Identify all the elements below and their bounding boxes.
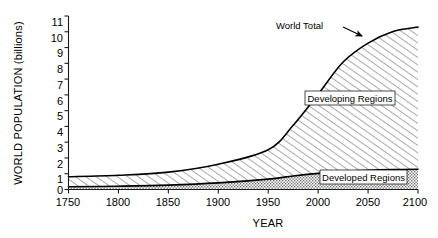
- y-tick-label-8: 8: [57, 63, 63, 75]
- x-tick-label-1800: 1800: [106, 196, 130, 208]
- developing-regions-label: Developing Regions: [307, 93, 392, 104]
- x-tick-label-2100: 2100: [403, 196, 427, 208]
- y-tick-label-4: 4: [57, 126, 63, 138]
- y-tick-label-2: 2: [57, 158, 63, 170]
- y-tick-label-3: 3: [57, 142, 63, 154]
- x-tick-label-2050: 2050: [356, 196, 380, 208]
- y-axis-title: WORLD POPULATION (billions): [12, 21, 24, 185]
- y-tick-label-5: 5: [57, 110, 63, 122]
- legend-developing-regions: Developing Regions: [305, 91, 395, 105]
- x-tick-label-2000: 2000: [306, 196, 330, 208]
- legend-developed-regions: Developed Regions: [320, 170, 407, 184]
- y-tick-label-6: 6: [57, 95, 63, 107]
- x-tick-label-1900: 1900: [206, 196, 230, 208]
- world-total-label: World Total: [276, 20, 323, 31]
- y-tick-label-9: 9: [57, 47, 63, 59]
- x-tick-label-1950: 1950: [256, 196, 280, 208]
- x-axis-title: YEAR: [253, 217, 284, 229]
- y-tick-label-11: 11: [52, 16, 63, 28]
- y-tick-label-7: 7: [57, 79, 63, 91]
- chart-canvas: 11 10 9 8 7 6 5 4 3 2 1 0 1750 1800 1850…: [0, 0, 438, 238]
- x-tick-label-1750: 1750: [56, 196, 80, 208]
- population-chart-figure: 11 10 9 8 7 6 5 4 3 2 1 0 1750 1800 1850…: [0, 0, 438, 238]
- y-tick-label-10: 10: [51, 32, 63, 44]
- x-tick-label-1850: 1850: [156, 196, 180, 208]
- y-tick-label-0: 0: [57, 184, 63, 196]
- developed-regions-label: Developed Regions: [322, 172, 405, 183]
